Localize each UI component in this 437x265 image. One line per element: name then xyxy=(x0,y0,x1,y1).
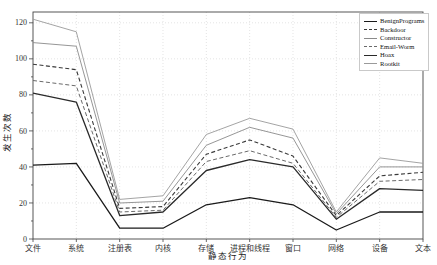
x-tick-label: 注册表 xyxy=(108,243,132,253)
legend-label: Constructor xyxy=(380,34,411,42)
y-tick-label: 120 xyxy=(15,18,27,27)
x-tick-label: 内核 xyxy=(155,243,171,253)
series-line-benignprograms xyxy=(33,163,423,230)
y-axis-title: 发生次数 xyxy=(0,102,12,162)
x-tick-label: 设备 xyxy=(372,243,388,253)
legend-line-sample xyxy=(364,29,377,30)
legend-item-rootkit: Rootkit xyxy=(364,60,425,68)
y-tick-label: 0 xyxy=(23,235,27,244)
y-tick-label: 100 xyxy=(15,54,27,63)
x-tick-label: 文件 xyxy=(25,243,41,253)
chart-canvas: 020406080100120文件系统注册表内核存储进程和线程窗口网络设备文本 … xyxy=(0,0,437,265)
y-tick-label: 60 xyxy=(19,127,27,136)
legend-line-sample xyxy=(364,46,377,47)
legend-line-sample xyxy=(364,38,377,39)
legend-label: Email-Worm xyxy=(380,43,414,51)
legend-item-email-worm: Email-Worm xyxy=(364,43,425,51)
legend-line-sample xyxy=(364,63,377,64)
y-tick-label: 20 xyxy=(19,199,27,208)
y-tick-label: 80 xyxy=(19,90,27,99)
legend-item-constructor: Constructor xyxy=(364,34,425,42)
legend-label: Backdoor xyxy=(380,26,406,34)
y-tick-label: 40 xyxy=(19,163,27,172)
x-axis-title: 静态行为 xyxy=(198,249,258,261)
legend-line-sample xyxy=(364,55,377,56)
legend-item-backdoor: Backdoor xyxy=(364,26,425,34)
series-line-backdoor xyxy=(33,64,423,215)
legend-label: BenignPrograms xyxy=(380,17,424,25)
legend-item-benignprograms: BenignPrograms xyxy=(364,17,425,25)
x-tick-label: 系统 xyxy=(68,243,84,253)
legend: BenignProgramsBackdoorConstructorEmail-W… xyxy=(359,13,429,71)
x-tick-label: 文本 xyxy=(415,243,431,253)
x-tick-label: 网络 xyxy=(328,243,344,253)
x-tick-label: 窗口 xyxy=(285,243,301,253)
legend-label: Rootkit xyxy=(380,60,400,68)
legend-item-hoax: Hoax xyxy=(364,51,425,59)
legend-line-sample xyxy=(364,21,377,22)
legend-label: Hoax xyxy=(380,51,394,59)
